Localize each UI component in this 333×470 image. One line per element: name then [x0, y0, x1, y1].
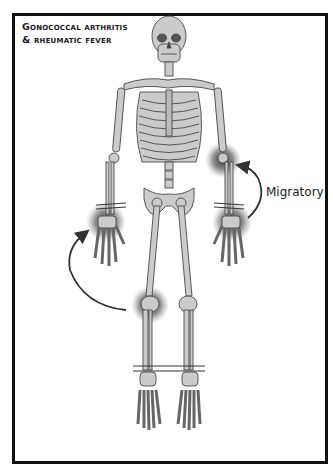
right-foot [138, 372, 160, 430]
cervical-spine [165, 62, 173, 76]
lumbar-spine [165, 162, 173, 188]
clavicles [124, 79, 214, 90]
left-leg [176, 198, 197, 370]
right-leg [141, 198, 162, 370]
pelvis [144, 188, 195, 216]
skeleton-illustration [0, 0, 333, 470]
left-foot [178, 372, 200, 430]
migratory-label: Migratory [266, 185, 324, 199]
rib-cage [136, 90, 201, 162]
skull [152, 16, 186, 62]
right-arm [106, 88, 125, 214]
